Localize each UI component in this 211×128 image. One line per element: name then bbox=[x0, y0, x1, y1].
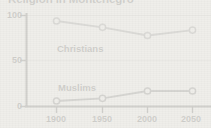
x-axis-tick-label-1950: 1950 bbox=[81, 114, 123, 124]
chart-plot-area bbox=[0, 0, 211, 128]
axis-lines bbox=[25, 13, 211, 107]
data-point-marker bbox=[53, 98, 59, 104]
x-axis-tick-label-1900: 1900 bbox=[35, 114, 77, 124]
data-point-marker bbox=[189, 27, 195, 33]
series-polyline bbox=[57, 21, 193, 36]
data-point-marker bbox=[144, 88, 150, 94]
y-axis-tick-label-100: 100 bbox=[0, 10, 22, 20]
data-point-marker bbox=[144, 32, 150, 38]
data-point-marker bbox=[189, 88, 195, 94]
x-axis-tick-label-2050: 2050 bbox=[171, 114, 211, 124]
x-axis-tick-label-2000: 2000 bbox=[126, 114, 168, 124]
chart-title: Religion in Montenegro bbox=[8, 0, 134, 5]
data-point-marker bbox=[53, 18, 59, 24]
y-axis-tick-label-0: 0 bbox=[0, 101, 22, 111]
series-label-muslims: Muslims bbox=[58, 82, 96, 93]
series-label-christians: Christians bbox=[57, 43, 103, 54]
data-point-marker bbox=[99, 95, 105, 101]
series-line-christians bbox=[53, 18, 195, 39]
data-point-marker bbox=[99, 24, 105, 30]
y-axis-tick-label-50: 50 bbox=[0, 55, 22, 65]
